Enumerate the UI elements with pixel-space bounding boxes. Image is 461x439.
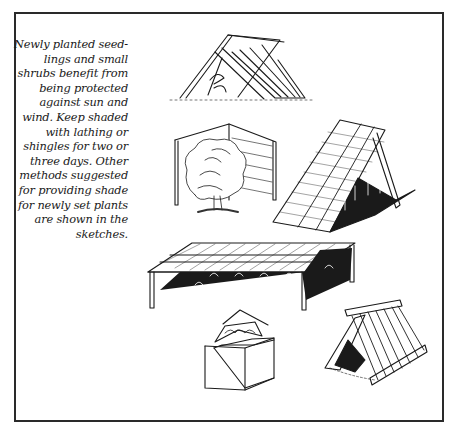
lath-canopy-table (148, 243, 355, 310)
shrub (185, 139, 246, 212)
open-box-lid (205, 310, 274, 390)
lath-lean-to (273, 120, 415, 232)
a-frame-boards-tent (170, 35, 315, 100)
corner-screen-shrub (175, 124, 276, 212)
sketches (0, 0, 461, 439)
slatted-a-frame (325, 300, 427, 385)
